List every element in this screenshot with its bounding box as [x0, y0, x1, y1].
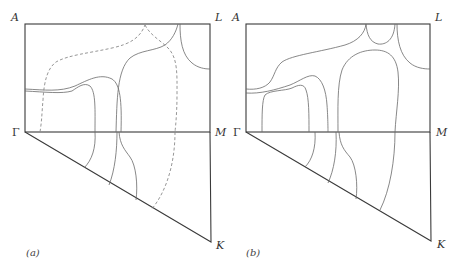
panel-b-gamma-k-m-frame [246, 132, 431, 241]
panel-a-dashed-right [145, 25, 177, 132]
panel-a-label-L: L [214, 11, 222, 24]
panel-a-gamma-k-m-frame [25, 132, 211, 242]
panel-a-curve-tri-2 [109, 132, 117, 185]
panel-b-label-gamma: Γ [233, 126, 241, 139]
panel-b-curve-tri-1 [305, 132, 315, 167]
panel-a-curve-center-arc [116, 24, 178, 132]
panel-b: A L Γ M K (b) [231, 11, 448, 258]
panel-a-label-K: K [215, 239, 225, 252]
panel-b-curve-tri-4 [380, 132, 395, 210]
panel-b-curve-central-arch [338, 50, 399, 132]
panel-b-label-A: A [231, 11, 240, 24]
panel-b-label-K: K [436, 238, 446, 251]
panel-a-curve-tri-1 [84, 132, 95, 168]
panel-a-label-gamma: Γ [12, 126, 20, 139]
panel-b-caption: (b) [246, 247, 260, 258]
panel-a-alm-gamma-frame [25, 24, 210, 132]
panel-b-curve-l-corner [397, 24, 430, 69]
panel-a-dashed-triangle [151, 132, 175, 210]
panel-a-caption: (a) [26, 247, 40, 258]
panel-a-label-M: M [214, 126, 227, 139]
panel-a-curve-lower-left-band [25, 85, 95, 132]
panel-b-curve-inner-pocket [262, 85, 309, 132]
fermi-surface-figure: A L Γ M K (a) A L Γ M K (b) [0, 0, 455, 271]
panel-a-curve-upper-left-band [25, 77, 121, 132]
panel-a-curve-l-corner [180, 24, 210, 69]
panel-b-curve-middle-band [246, 76, 328, 132]
panel-a: A L Γ M K (a) [10, 11, 227, 258]
panel-a-label-A: A [10, 11, 19, 24]
panel-b-curve-l-pocket [366, 24, 395, 44]
panel-b-label-M: M [435, 126, 448, 139]
panel-b-curve-tri-2 [328, 132, 336, 183]
panel-b-curve-top-band [246, 24, 366, 89]
panel-b-label-L: L [434, 11, 442, 24]
